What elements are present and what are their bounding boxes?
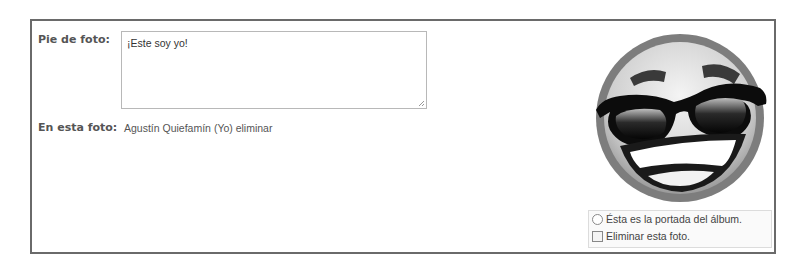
delete-photo-label: Eliminar esta foto. [606,230,690,242]
tagged-label: En esta foto: [38,121,117,134]
album-cover-option[interactable]: Ésta es la portada del álbum. [592,213,742,225]
remove-tag-link[interactable]: eliminar [236,122,273,134]
resize-grip-icon[interactable] [417,99,425,107]
album-cover-radio[interactable] [592,214,603,225]
tagged-person-link[interactable]: Agustín Quiefamín (Yo) [124,122,233,134]
photo-options: Ésta es la portada del álbum. Eliminar e… [588,210,772,248]
caption-label: Pie de foto: [38,33,110,46]
photo-edit-panel: Pie de foto: ¡Este soy yo! En esta foto:… [30,19,776,254]
caption-textarea[interactable]: ¡Este soy yo! [121,31,427,109]
album-cover-label: Ésta es la portada del álbum. [606,213,742,225]
delete-photo-option[interactable]: Eliminar esta foto. [592,230,690,242]
smiley-sunglasses-icon [590,26,770,206]
delete-photo-checkbox[interactable] [592,231,603,242]
tagged-people: Agustín Quiefamín (Yo) eliminar [124,122,272,134]
